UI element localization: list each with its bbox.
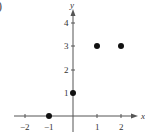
y-axis-label: y [69, 0, 74, 10]
scatter-chart: x y −2 −1 1 2 1 2 3 4 [0, 0, 145, 137]
x-ticks: −2 −1 1 2 [20, 114, 124, 132]
y-tick-label: 2 [64, 65, 69, 75]
x-tick-label: 1 [95, 122, 100, 132]
data-points [46, 43, 124, 119]
x-axis: x [14, 111, 145, 121]
data-point [118, 43, 124, 49]
data-point [94, 43, 100, 49]
y-axis: y [69, 0, 76, 132]
x-tick-label: −1 [44, 122, 54, 132]
data-point [46, 113, 52, 119]
y-tick-label: 4 [64, 18, 69, 28]
x-tick-label: 2 [119, 122, 124, 132]
y-tick-label: 1 [64, 88, 69, 98]
data-point [70, 90, 76, 96]
x-tick-label: −2 [20, 122, 30, 132]
x-axis-label: x [140, 111, 145, 121]
y-tick-label: 3 [64, 41, 69, 51]
